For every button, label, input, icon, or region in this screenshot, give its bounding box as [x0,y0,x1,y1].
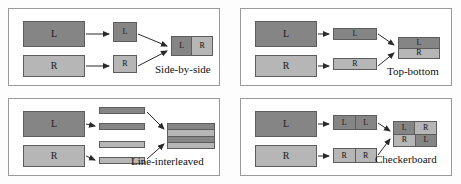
output-checker-cell-1-1: L [415,135,436,147]
intermediate-left-block: L [113,22,137,42]
arrow-midleft-to-output [378,123,390,131]
panel-checkerboard: L R L L R R L R R L [240,98,452,176]
output-side-by-side-block: L R [171,36,213,56]
source-right-block: R [23,55,85,77]
source-right-label: R [283,61,290,71]
panel-line-interleaved: L R Line-interleaved [8,98,220,176]
figure-canvas: L R L R L R Side-by-side [0,0,461,184]
arrow-midleft-to-output [378,34,394,45]
intermediate-left-block: L [333,28,377,40]
caption-checkerboard: Checkerboard [375,153,437,165]
output-row-top: L [399,38,439,48]
source-right-block: R [23,145,85,167]
source-left-label: L [283,29,289,39]
intermediate-right-block: R [113,55,137,73]
caption-top-bottom: Top-bottom [387,65,439,77]
intermediate-left-label: L [123,28,128,36]
source-left-label: L [283,119,289,129]
arrow-left-to-bars [86,124,95,126]
output-checker-cell-1-0: R [394,135,415,147]
source-right-block: R [255,55,317,77]
intermediate-bar-3 [99,141,145,148]
source-right-block: R [255,145,317,167]
output-checkerboard-block: L R R L [393,121,437,147]
intermediate-right-block: R [333,58,377,70]
output-cell-left: L [172,37,191,55]
source-left-block: L [255,111,317,137]
source-left-label: L [51,29,57,39]
output-checker-row-bottom: R L [394,134,436,147]
intermediate-bar-2 [99,123,145,130]
caption-side-by-side: Side-by-side [155,63,211,75]
intermediate-bar-1 [99,107,145,114]
intermediate-left-cell-2: L [355,116,377,129]
source-left-block: L [23,21,85,47]
source-left-block: L [23,111,85,137]
output-checker-row-top: L R [394,122,436,134]
output-line-interleaved-block [167,123,215,149]
output-checker-cell-0-1: R [414,122,436,134]
intermediate-left-cell-1: L [334,116,355,129]
output-row-bottom: R [399,48,439,59]
arrow-midleft-to-output [138,34,167,46]
intermediate-right-cell-2: R [355,149,377,162]
arrow-right-to-bars [86,156,95,160]
source-right-label: R [283,151,290,161]
output-cell-right: R [191,37,212,55]
output-checker-cell-0-0: L [394,122,414,134]
intermediate-right-label: R [122,60,127,68]
source-right-label: R [51,151,58,161]
intermediate-left-pair-block: L L [333,115,377,130]
caption-line-interleaved: Line-interleaved [131,155,204,167]
source-left-block: L [255,21,317,47]
output-top-bottom-block: L R [398,37,440,59]
panel-top-bottom: L R L R L R Top-bottom [240,8,452,86]
source-right-label: R [51,61,58,71]
intermediate-right-pair-block: R R [333,148,377,163]
intermediate-left-label: L [353,30,358,38]
intermediate-right-label: R [352,60,357,68]
panel-side-by-side: L R L R L R Side-by-side [8,8,220,86]
intermediate-right-cell-1: R [334,149,355,162]
arrow-bar1-to-output [147,112,164,129]
output-row-4 [168,142,214,148]
source-left-label: L [51,119,57,129]
